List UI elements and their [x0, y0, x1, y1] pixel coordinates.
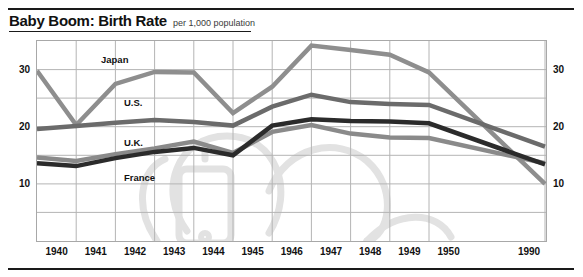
- y-axis-left-tick-30: 30: [4, 64, 30, 75]
- series-label-uk: U.K.: [124, 137, 143, 148]
- chart-canvas: [37, 41, 546, 241]
- gridlines: [37, 41, 546, 241]
- page-title: Baby Boom: Birth Rate: [9, 12, 167, 29]
- chart-subtitle: per 1,000 population: [173, 18, 255, 28]
- series-label-japan: Japan: [101, 54, 128, 65]
- header-rule-top: [8, 8, 574, 10]
- series-label-france: France: [124, 172, 155, 183]
- y-axis-right-tick-30: 30: [553, 64, 579, 75]
- series-label-us: U.S.: [124, 97, 142, 108]
- chart-figure: Baby Boom: Birth Rate per 1,000 populati…: [0, 0, 583, 277]
- x-axis-tick-1950: 1950: [423, 246, 475, 257]
- y-axis-right-tick-20: 20: [553, 121, 579, 132]
- footer-rule-bottom: [8, 268, 574, 270]
- y-axis-right-tick-10: 10: [553, 178, 579, 189]
- watermark-illustration: [143, 136, 451, 241]
- plot-area: [36, 40, 547, 242]
- y-axis-left-tick-20: 20: [4, 121, 30, 132]
- title-underline: [9, 31, 251, 32]
- y-axis-left-tick-10: 10: [4, 178, 30, 189]
- chart-header: Baby Boom: Birth Rate per 1,000 populati…: [9, 12, 255, 29]
- x-axis-tick-1990: 1990: [503, 246, 555, 257]
